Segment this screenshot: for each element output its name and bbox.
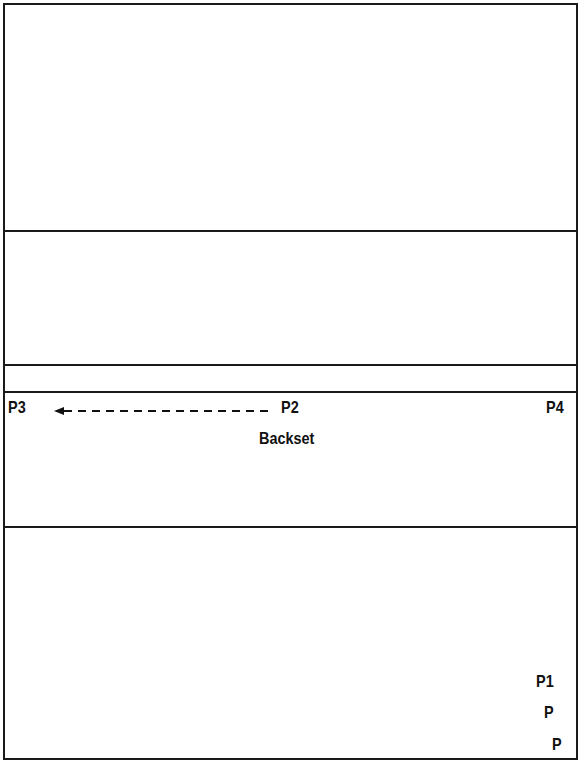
label-p2: P2 [281, 398, 299, 418]
diagram-frame [3, 3, 578, 760]
dashed-arrow-icon [54, 406, 274, 416]
label-p1: P1 [536, 672, 554, 692]
divider-line-4 [3, 526, 576, 528]
label-p4: P4 [546, 398, 564, 418]
divider-line-1 [3, 230, 576, 232]
label-backset: Backset [259, 429, 314, 449]
divider-line-3 [3, 391, 576, 393]
label-p-a: P [544, 703, 554, 723]
label-p3: P3 [8, 398, 26, 418]
label-p-b: P [552, 735, 562, 755]
divider-line-2 [3, 364, 576, 366]
